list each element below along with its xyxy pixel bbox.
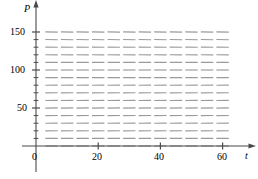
axes-layer: [22, 0, 256, 172]
x-tick-label-40: 40: [154, 152, 164, 162]
x-tick-label-60: 60: [217, 152, 227, 162]
x-tick-label-20: 20: [92, 152, 102, 162]
t-axis-arrowhead: [249, 143, 257, 148]
y-tick-label-50: 50: [17, 103, 27, 113]
p-axis-arrowhead: [33, 0, 38, 8]
x-tick-label-0: 0: [32, 152, 37, 162]
y-tick-label-150: 150: [10, 27, 25, 37]
slope-segment-layer: [45, 32, 228, 146]
y-tick-label-100: 100: [10, 65, 25, 75]
y-axis-name-label: P: [24, 4, 30, 14]
x-axis-name-label: t: [245, 151, 248, 161]
slope-field-figure: 150 100 50 0 20 40 60 P t: [0, 0, 258, 179]
